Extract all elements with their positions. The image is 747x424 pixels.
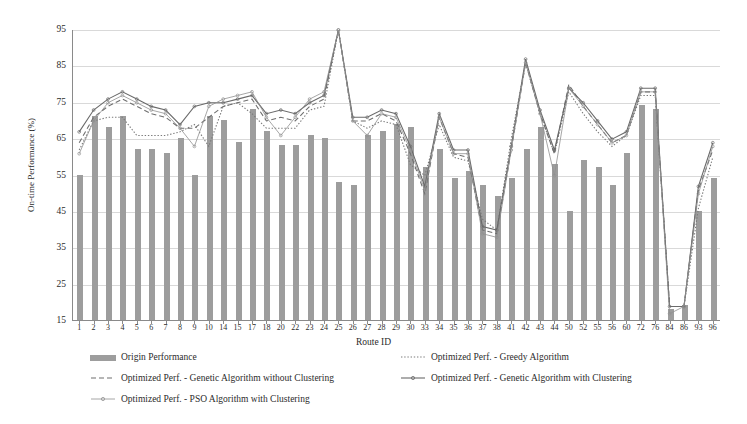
x-tick-label: 34 <box>435 323 443 332</box>
x-tick-mark <box>526 321 527 324</box>
x-tick-label: 38 <box>493 323 501 332</box>
x-tick-label: 43 <box>536 323 544 332</box>
x-tick-label: 41 <box>507 323 515 332</box>
bar <box>639 105 645 320</box>
legend-item[interactable]: Origin Performance <box>90 352 197 362</box>
x-tick-label: 2 <box>92 323 96 332</box>
x-tick-mark <box>425 321 426 324</box>
bar <box>120 116 126 320</box>
bar <box>336 182 342 320</box>
x-tick-mark <box>194 321 195 324</box>
x-tick-mark <box>410 321 411 324</box>
bar <box>394 124 400 320</box>
x-tick-label: 8 <box>178 323 182 332</box>
bar <box>293 145 299 320</box>
x-tick-mark <box>713 321 714 324</box>
plot-area <box>72 30 720 321</box>
x-tick-mark <box>180 321 181 324</box>
x-tick-mark <box>396 321 397 324</box>
legend-item[interactable]: Optimized Perf. - Genetic Algorithm with… <box>400 373 632 383</box>
x-tick-label: 18 <box>262 323 270 332</box>
x-tick-mark <box>94 321 95 324</box>
x-tick-mark <box>79 321 80 324</box>
x-tick-mark <box>655 321 656 324</box>
x-tick-mark <box>108 321 109 324</box>
x-tick-mark <box>698 321 699 324</box>
x-tick-label: 33 <box>421 323 429 332</box>
x-tick-mark <box>598 321 599 324</box>
x-tick-mark <box>554 321 555 324</box>
bar <box>322 138 328 320</box>
bar <box>250 109 256 320</box>
bar <box>106 127 112 320</box>
x-tick-label: 15 <box>234 323 242 332</box>
x-tick-mark <box>497 321 498 324</box>
gridline <box>73 103 720 104</box>
bar <box>610 185 616 320</box>
y-tick-label: 65 <box>40 133 66 143</box>
dashed-line-icon <box>90 373 116 383</box>
x-tick-label: 86 <box>680 323 688 332</box>
x-tick-label: 29 <box>392 323 400 332</box>
bar <box>668 309 674 320</box>
x-tick-mark <box>223 321 224 324</box>
bar <box>135 149 141 320</box>
x-tick-mark <box>338 321 339 324</box>
y-tick-label: 45 <box>40 206 66 216</box>
x-tick-label: 25 <box>334 323 342 332</box>
bar <box>452 178 458 320</box>
y-tick-label: 75 <box>40 97 66 107</box>
legend-item-label: Optimized Perf. - PSO Algorithm with Clu… <box>121 394 310 404</box>
y-tick-label: 85 <box>40 60 66 70</box>
legend-item[interactable]: Optimized Perf. - PSO Algorithm with Clu… <box>90 394 310 404</box>
x-tick-mark <box>439 321 440 324</box>
x-tick-label: 52 <box>579 323 587 332</box>
x-tick-label: 26 <box>349 323 357 332</box>
x-tick-label: 17 <box>248 323 256 332</box>
x-tick-mark <box>281 321 282 324</box>
x-tick-label: 10 <box>205 323 213 332</box>
marker-line-icon <box>400 373 426 383</box>
x-tick-mark <box>324 321 325 324</box>
bar <box>279 145 285 320</box>
x-tick-mark <box>238 321 239 324</box>
x-tick-label: 27 <box>363 323 371 332</box>
bar <box>380 131 386 320</box>
bar <box>192 175 198 321</box>
legend-item-label: Optimized Perf. - Genetic Algorithm with… <box>121 373 334 383</box>
legend-item-label: Origin Performance <box>121 352 197 362</box>
bar <box>437 149 443 320</box>
x-tick-label: 23 <box>306 323 314 332</box>
x-tick-mark <box>151 321 152 324</box>
bar <box>624 153 630 320</box>
y-tick-label: 55 <box>40 170 66 180</box>
x-tick-mark <box>569 321 570 324</box>
x-tick-label: 76 <box>651 323 659 332</box>
x-tick-label: 20 <box>277 323 285 332</box>
bar <box>77 175 83 321</box>
bar <box>711 178 717 320</box>
bar <box>653 109 659 320</box>
x-tick-mark <box>367 321 368 324</box>
x-tick-label: 35 <box>450 323 458 332</box>
x-tick-mark <box>382 321 383 324</box>
x-tick-label: 5 <box>135 323 139 332</box>
x-tick-label: 24 <box>320 323 328 332</box>
bar <box>596 167 602 320</box>
x-tick-label: 37 <box>478 323 486 332</box>
legend-item[interactable]: Optimized Perf. - Genetic Algorithm with… <box>90 373 334 383</box>
x-tick-label: 55 <box>594 323 602 332</box>
bar <box>524 149 530 320</box>
x-tick-mark <box>511 321 512 324</box>
x-tick-mark <box>166 321 167 324</box>
x-tick-label: 72 <box>637 323 645 332</box>
x-tick-mark <box>122 321 123 324</box>
x-tick-label: 14 <box>219 323 227 332</box>
x-tick-label: 42 <box>522 323 530 332</box>
bar <box>178 138 184 320</box>
bar <box>164 153 170 320</box>
bar <box>207 116 213 320</box>
bar <box>696 211 702 320</box>
legend-item[interactable]: Optimized Perf. - Greedy Algorithm <box>400 352 569 362</box>
x-tick-mark <box>641 321 642 324</box>
